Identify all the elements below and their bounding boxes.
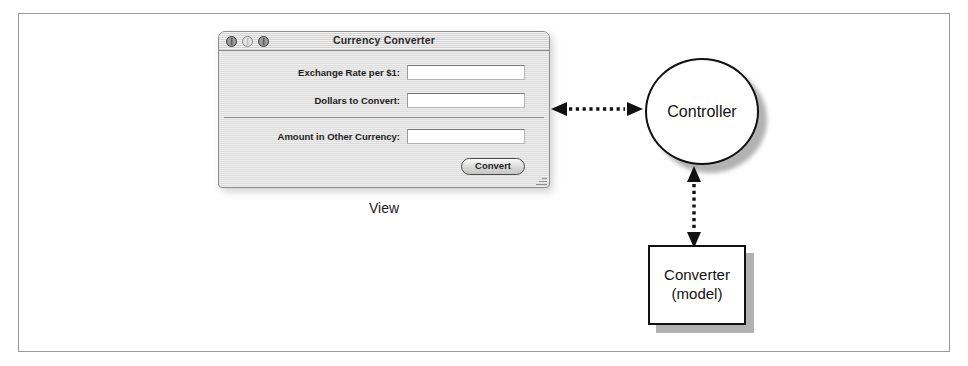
connector-view-controller — [551, 101, 643, 117]
model-label-line1: Converter — [664, 266, 730, 285]
resize-grip-icon[interactable] — [534, 174, 547, 187]
amount-other-currency-input[interactable] — [407, 129, 525, 144]
currency-converter-window[interactable]: Currency Converter Exchange Rate per $1:… — [218, 31, 550, 188]
form-row-dollars: Dollars to Convert: — [219, 91, 549, 109]
model-node: Converter (model) — [648, 245, 746, 325]
window-title: Currency Converter — [219, 34, 549, 46]
form-row-exchange-rate: Exchange Rate per $1: — [219, 63, 549, 81]
controller-node: Controller — [645, 58, 759, 165]
form-row-amount: Amount in Other Currency: — [219, 127, 549, 145]
arrowhead-left-icon — [551, 102, 567, 116]
caption-view: View — [218, 200, 550, 216]
window-content: Exchange Rate per $1: Dollars to Convert… — [219, 51, 549, 188]
exchange-rate-input[interactable] — [407, 65, 525, 80]
controller-label: Controller — [667, 103, 736, 121]
exchange-rate-label: Exchange Rate per $1: — [219, 67, 407, 78]
window-titlebar[interactable]: Currency Converter — [219, 32, 549, 51]
connector-controller-model — [686, 166, 702, 248]
dollars-to-convert-label: Dollars to Convert: — [219, 95, 407, 106]
convert-button[interactable]: Convert — [461, 158, 525, 175]
arrowhead-right-icon — [627, 102, 643, 116]
mvc-figure: Currency Converter Exchange Rate per $1:… — [0, 0, 968, 366]
amount-other-currency-label: Amount in Other Currency: — [219, 131, 407, 142]
convert-button-container: Convert — [461, 155, 525, 175]
form-separator — [224, 117, 544, 118]
model-label-line2: (model) — [672, 285, 723, 304]
dollars-to-convert-input[interactable] — [407, 93, 525, 108]
arrowhead-up-icon — [687, 166, 701, 182]
